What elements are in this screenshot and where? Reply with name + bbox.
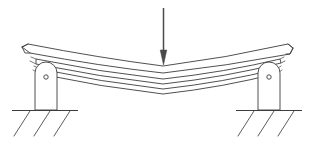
- left-support: [12, 62, 78, 136]
- left-support-pin-icon: [44, 75, 48, 79]
- left-ground-hatching: [14, 111, 70, 136]
- right-support-pin-icon: [267, 75, 271, 79]
- beam-load-diagram: [0, 0, 313, 141]
- laminated-curved-beam: [22, 44, 293, 94]
- right-support: [236, 62, 302, 136]
- left-support-post: [35, 62, 57, 110]
- right-support-post: [258, 62, 280, 110]
- diagram-canvas: [0, 0, 313, 141]
- central-point-load-arrow: [160, 8, 167, 65]
- right-ground-hatching: [238, 111, 294, 136]
- load-arrow-head: [160, 50, 167, 65]
